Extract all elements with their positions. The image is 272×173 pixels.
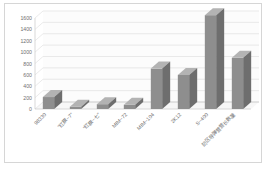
bar-group bbox=[151, 62, 170, 109]
y-axis-tick-label: 1000 bbox=[20, 49, 32, 55]
bar-group bbox=[178, 68, 197, 109]
chart-plot-area: 0200400600800100012001400160098330"红旗−7"… bbox=[5, 4, 261, 162]
bar-front-face bbox=[70, 107, 81, 109]
y-axis-tick-label: 800 bbox=[23, 61, 32, 67]
bar-front-face bbox=[151, 69, 162, 109]
bar-side-face bbox=[189, 68, 197, 109]
chart-frame: 0200400600800100012001400160098330"红旗−7"… bbox=[4, 3, 262, 163]
x-axis-tick-label: MIM−72 bbox=[111, 111, 129, 129]
bar-chart: 0200400600800100012001400160098330"红旗−7"… bbox=[5, 4, 263, 164]
x-axis-tick-label: "红旗−7" bbox=[55, 111, 75, 131]
bar-side-face bbox=[216, 8, 224, 109]
y-axis-tick-label: 1600 bbox=[20, 15, 32, 21]
bar-side-face bbox=[243, 51, 251, 109]
bar-front-face bbox=[124, 105, 135, 109]
bar-front-face bbox=[178, 75, 189, 109]
chart-floor bbox=[35, 102, 259, 109]
y-axis-tick-label: 400 bbox=[23, 83, 32, 89]
x-axis-tick-label: MIM−104 bbox=[136, 111, 156, 131]
y-axis-tick-label: 600 bbox=[23, 72, 32, 78]
bar-side-face bbox=[162, 62, 170, 109]
y-axis-tick-label: 0 bbox=[29, 106, 32, 112]
x-axis-tick-label: S−400 bbox=[194, 111, 209, 126]
bar-front-face bbox=[205, 15, 216, 109]
bar-front-face bbox=[43, 97, 54, 109]
x-axis-tick-label: 98330 bbox=[33, 111, 48, 126]
bar-group bbox=[232, 51, 251, 109]
bar-group bbox=[205, 8, 224, 109]
bar-front-face bbox=[232, 58, 243, 109]
bar-front-face bbox=[97, 104, 108, 109]
y-axis-tick-label: 1400 bbox=[20, 26, 32, 32]
x-axis-tick-label: "红旗−七" bbox=[81, 111, 102, 132]
x-axis-tick-label: 2K12 bbox=[169, 111, 182, 124]
y-axis-tick-label: 200 bbox=[23, 95, 32, 101]
y-axis-tick-label: 1200 bbox=[20, 38, 32, 44]
